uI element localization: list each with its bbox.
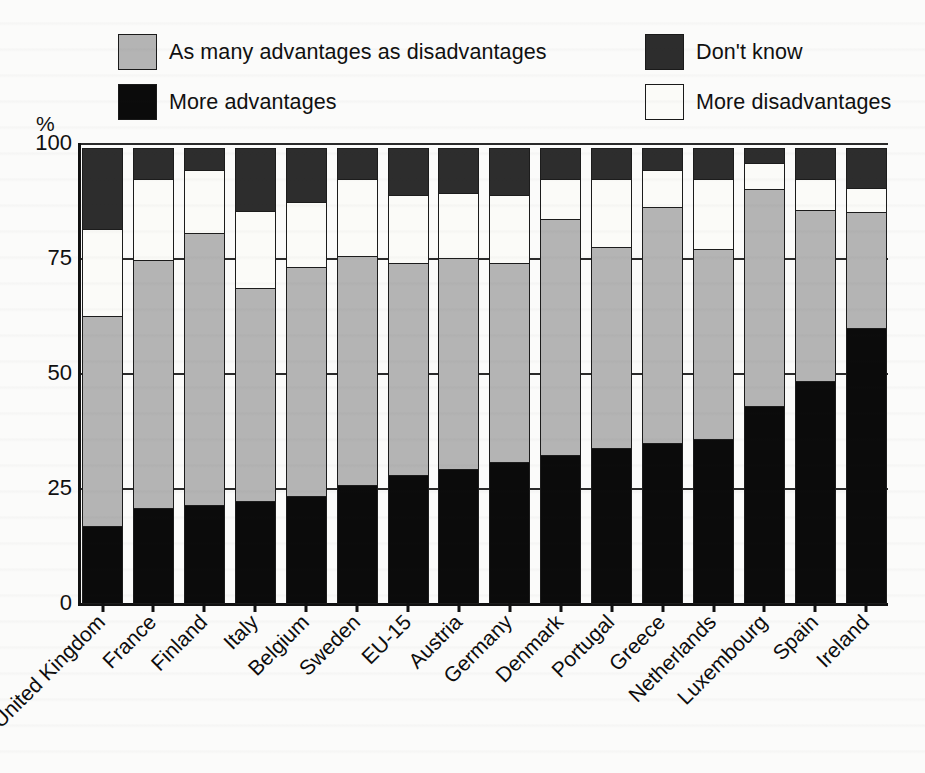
bar-segment <box>693 148 734 180</box>
bar-segment <box>184 505 225 604</box>
legend-label: More advantages <box>169 90 337 115</box>
legend-swatch <box>645 34 684 70</box>
bar-segment <box>133 179 174 262</box>
bar-segment <box>286 267 327 497</box>
y-axis-tick-label: 0 <box>14 590 72 616</box>
bar-segment <box>693 249 734 440</box>
bar-denmark[interactable] <box>540 143 581 603</box>
bar-segment <box>489 263 530 463</box>
bar-segment <box>540 455 581 605</box>
bar-eu-15[interactable] <box>388 143 429 603</box>
x-axis-category-label: Finland <box>146 610 212 676</box>
bar-segment <box>235 148 276 212</box>
bar-segment <box>82 316 123 528</box>
bar-segment <box>388 263 429 477</box>
x-axis-category-label: Ireland <box>812 610 874 672</box>
bar-segment <box>642 170 683 209</box>
bar-segment <box>286 148 327 203</box>
bar-finland[interactable] <box>184 143 225 603</box>
bar-segment <box>591 179 632 248</box>
legend-swatch <box>645 84 684 120</box>
bar-segment <box>540 179 581 220</box>
bar-segment <box>591 247 632 449</box>
x-axis-category-label: EU-15 <box>356 610 415 669</box>
bar-segment <box>489 462 530 605</box>
bar-segment <box>438 148 479 194</box>
bar-segment <box>693 179 734 250</box>
bar-spain[interactable] <box>795 143 836 603</box>
legend-item: Don't know <box>645 34 803 70</box>
bar-group-container <box>81 143 888 603</box>
legend-item: More advantages <box>118 84 337 120</box>
bar-greece[interactable] <box>642 143 683 603</box>
bar-italy[interactable] <box>235 143 276 603</box>
bar-segment <box>489 195 530 264</box>
bar-segment <box>795 210 836 383</box>
bar-segment <box>388 195 429 264</box>
bar-segment <box>540 148 581 180</box>
bar-segment <box>846 148 887 189</box>
bar-segment <box>184 233 225 507</box>
bar-segment <box>642 443 683 604</box>
bar-segment <box>744 148 785 164</box>
bar-segment <box>337 485 378 605</box>
bar-austria[interactable] <box>438 143 479 603</box>
x-axis-category-labels: United KingdomFranceFinlandItalyBelgiumS… <box>78 606 885 771</box>
legend-label: As many advantages as disadvantages <box>169 40 547 65</box>
bar-segment <box>846 328 887 604</box>
bar-segment <box>744 189 785 408</box>
bar-segment <box>82 526 123 604</box>
bar-france[interactable] <box>133 143 174 603</box>
bar-segment <box>642 207 683 444</box>
bar-segment <box>846 212 887 329</box>
bar-segment <box>388 475 429 604</box>
bar-segment <box>591 148 632 180</box>
bar-segment <box>795 381 836 604</box>
bar-segment <box>133 260 174 508</box>
bar-sweden[interactable] <box>337 143 378 603</box>
bar-segment <box>337 179 378 257</box>
bar-segment <box>388 148 429 196</box>
bar-segment <box>235 288 276 502</box>
bar-united-kingdom[interactable] <box>82 143 123 603</box>
bar-ireland[interactable] <box>846 143 887 603</box>
y-axis-tick-label: 50 <box>14 360 72 386</box>
bar-segment <box>438 258 479 470</box>
bar-segment <box>744 163 785 191</box>
bar-segment <box>286 202 327 269</box>
chart-legend: As many advantages as disadvantagesDon't… <box>118 34 908 118</box>
bar-segment <box>82 229 123 316</box>
bar-segment <box>235 211 276 289</box>
bar-portugal[interactable] <box>591 143 632 603</box>
legend-label: More disadvantages <box>696 90 891 115</box>
bar-segment <box>337 148 378 180</box>
bar-segment <box>438 469 479 605</box>
bar-segment <box>438 193 479 260</box>
legend-item: As many advantages as disadvantages <box>118 34 547 70</box>
legend-label: Don't know <box>696 40 803 65</box>
bar-segment <box>693 439 734 605</box>
legend-swatch <box>118 34 157 70</box>
bar-segment <box>133 148 174 180</box>
bar-segment <box>337 256 378 486</box>
legend-swatch <box>118 84 157 120</box>
bar-segment <box>184 148 225 171</box>
bar-segment <box>795 179 836 211</box>
bar-segment <box>133 508 174 605</box>
y-axis-tick-label: 25 <box>14 475 72 501</box>
bar-segment <box>286 496 327 604</box>
bar-belgium[interactable] <box>286 143 327 603</box>
bar-segment <box>846 188 887 213</box>
bar-segment <box>642 148 683 171</box>
x-axis-category-label: Italy <box>219 610 263 654</box>
y-axis-tick-label: 100 <box>14 130 72 156</box>
bar-luxembourg[interactable] <box>744 143 785 603</box>
bar-segment <box>540 219 581 456</box>
legend-item: More disadvantages <box>645 84 891 120</box>
stacked-bar-chart: As many advantages as disadvantagesDon't… <box>0 0 925 773</box>
bar-segment <box>795 148 836 180</box>
bar-segment <box>235 501 276 605</box>
bar-germany[interactable] <box>489 143 530 603</box>
bar-netherlands[interactable] <box>693 143 734 603</box>
bar-segment <box>591 448 632 604</box>
